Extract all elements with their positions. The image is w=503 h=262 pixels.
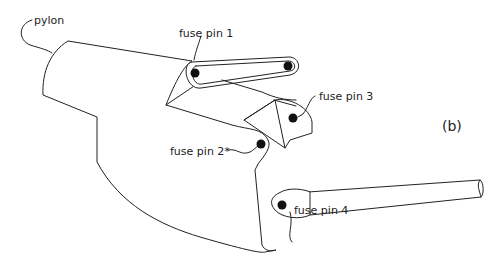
fuse-pin-2-icon bbox=[257, 140, 266, 149]
pylon-label: pylon bbox=[34, 15, 64, 26]
link-pin-icon bbox=[284, 62, 293, 71]
fuse-pin-4-icon bbox=[278, 201, 287, 210]
fuse-pin-3-icon bbox=[289, 114, 298, 123]
fuse-pin-4-label: fuse pin 4 bbox=[294, 205, 348, 216]
fuse-pin-1-label: fuse pin 1 bbox=[179, 28, 233, 39]
fuse-pin-3-label: fuse pin 3 bbox=[319, 91, 373, 102]
fuse-pin-1-icon bbox=[191, 69, 200, 78]
fuse-pin-2-label: fuse pin 2* bbox=[170, 146, 230, 157]
panel-label: (b) bbox=[442, 118, 462, 134]
upper-link-tail bbox=[222, 80, 296, 100]
pylon-diagram bbox=[0, 0, 503, 262]
